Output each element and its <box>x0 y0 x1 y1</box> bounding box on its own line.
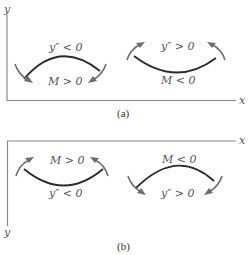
right-moment-arrow-a2 <box>213 45 225 60</box>
sagging-bottom-label-a: M < 0 <box>160 74 195 87</box>
sagging-top-label-a: y″ > 0 <box>160 40 195 53</box>
panel-b-caption: (b) <box>117 240 130 253</box>
hogging-bottom-label-a: M > 0 <box>47 75 82 88</box>
beam-curvature-diagram: y x y″ < 0 M > 0 y″ > 0 M < 0 (a) x y <box>0 0 252 255</box>
hogging-top-label-b: M < 0 <box>161 153 196 166</box>
sagging-arc-b <box>24 169 103 186</box>
hogging-top-label-a: y″ < 0 <box>48 41 83 54</box>
arrowhead-icon <box>88 76 97 83</box>
left-moment-arrow-b <box>16 160 29 176</box>
panel-a-caption: (a) <box>117 107 130 120</box>
panel-a: y x y″ < 0 M > 0 y″ > 0 M < 0 (a) <box>3 3 246 120</box>
y-axis-label-b: y <box>3 226 11 239</box>
arrowhead-icon <box>137 188 146 195</box>
arrowhead-icon <box>204 188 213 195</box>
arrowhead-icon <box>207 42 216 48</box>
sagging-top-label-b: M > 0 <box>49 154 84 167</box>
sagging-arc-a <box>134 56 216 73</box>
x-axis-label-a: x <box>239 94 246 107</box>
hogging-arc-b <box>136 166 214 188</box>
x-axis-label-b: x <box>239 134 246 147</box>
hogging-bottom-label-b: y″ > 0 <box>160 187 195 200</box>
panel-b: x y M > 0 y″ < 0 M < 0 y″ > 0 (b) <box>3 134 246 253</box>
arrowhead-icon <box>136 42 145 48</box>
sagging-bottom-label-b: y″ < 0 <box>48 187 83 200</box>
y-axis-label-a: y <box>3 3 11 16</box>
